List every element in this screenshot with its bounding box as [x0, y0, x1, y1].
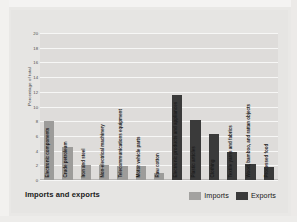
legend-label-exports: Exports	[251, 191, 276, 200]
figure-page: Percentage of total 20181614121086420 El…	[0, 0, 297, 222]
y-axis-tick-label: 4	[36, 148, 38, 153]
page-edge-left	[0, 0, 9, 222]
legend-label-imports: Imports	[204, 191, 229, 200]
bar-category-label: Wood, bamboo, and rattan objects	[248, 104, 253, 178]
bar-category-label: Raw cotton	[156, 154, 161, 178]
y-axis-tick-label: 8	[36, 119, 38, 124]
y-axis-tick-label: 14	[33, 75, 38, 80]
page-edge-bottom	[0, 216, 297, 222]
bar-category-label: Non-electrical machinery	[101, 125, 106, 178]
bar-slot: Wood, bamboo, and rattan objects	[245, 33, 255, 180]
y-axis-tick-labels: 20181614121086420	[24, 33, 38, 180]
bar-slot: Plastic articles	[190, 33, 200, 180]
bar-slot: Electronic products and appliances	[172, 33, 182, 180]
legend: Imports Exports	[189, 191, 276, 200]
bar-slot: Non-electrical machinery	[99, 33, 109, 180]
bar-slot: Processed food	[264, 33, 274, 180]
bar-chart: Percentage of total 20181614121086420 El…	[11, 10, 288, 213]
legend-swatch-imports	[189, 192, 201, 200]
bar-slot: Raw cotton	[154, 33, 164, 180]
legend-swatch-exports	[236, 192, 248, 200]
y-axis-tick-label: 18	[33, 45, 38, 50]
y-axis-tick-label: 2	[36, 163, 38, 168]
bar-category-label: Iron and steel	[83, 149, 88, 178]
bar-category-label: Crude petroleum	[64, 142, 69, 178]
bar-slot: Motor vehicle parts	[136, 33, 146, 180]
y-axis-tick-label: 6	[36, 133, 38, 138]
legend-item-exports: Exports	[236, 191, 276, 200]
bar-slot: Crude petroleum	[62, 33, 72, 180]
bar-category-label: Textile yarns and fabrics	[229, 126, 234, 178]
bar-slot: Electronic components	[44, 33, 54, 180]
page-edge-top	[0, 0, 297, 7]
y-axis-tick-label: 12	[33, 89, 38, 94]
bar-slot: Telecommunications equipment	[117, 33, 127, 180]
bar-slot: Iron and steel	[81, 33, 91, 180]
bar-category-label: Plastic articles	[193, 147, 198, 178]
bar-category-label: Clothing	[211, 160, 216, 178]
bar-slot: Clothing	[209, 33, 219, 180]
y-axis-tick-label: 20	[33, 31, 38, 36]
bar-group: Electronic componentsCrude petroleumIron…	[40, 33, 278, 180]
y-axis-tick-label: 0	[36, 178, 38, 183]
y-axis-tick-label: 10	[33, 104, 38, 109]
bar-category-label: Processed food	[266, 144, 271, 178]
bar-category-label: Electronic components	[46, 128, 51, 178]
legend-item-imports: Imports	[189, 191, 229, 200]
bar-category-label: Electronic products and appliances	[174, 102, 179, 178]
bar-category-label: Motor vehicle parts	[138, 137, 143, 178]
gridline	[40, 180, 278, 181]
bar-category-label: Telecommunications equipment	[119, 110, 124, 178]
page-edge-right	[291, 0, 297, 222]
bar-slot: Textile yarns and fabrics	[227, 33, 237, 180]
y-axis-tick-label: 16	[33, 60, 38, 65]
chart-title: Imports and exports	[25, 190, 100, 199]
